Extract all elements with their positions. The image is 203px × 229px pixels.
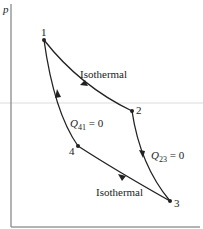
state-point-3 (168, 199, 172, 203)
state-point-1 (42, 38, 46, 42)
label-isothermal-1-2: Isothermal (80, 68, 127, 80)
state-point-2 (130, 109, 134, 113)
point-label-1: 1 (41, 26, 47, 38)
label-q23: Q23 = 0 (151, 149, 185, 164)
y-axis-label: p (2, 3, 9, 15)
pv-diagram: p 1 2 3 4 Isothermal Isothermal Q41 = 0 … (0, 0, 203, 229)
point-label-3: 3 (174, 197, 180, 209)
process-4-1 (44, 40, 78, 146)
point-label-2: 2 (136, 104, 142, 116)
label-q41: Q41 = 0 (70, 117, 104, 132)
point-label-4: 4 (69, 145, 75, 157)
label-isothermal-3-4: Isothermal (96, 186, 143, 198)
state-point-4 (76, 144, 80, 148)
arrow-4-1-icon (55, 89, 61, 98)
